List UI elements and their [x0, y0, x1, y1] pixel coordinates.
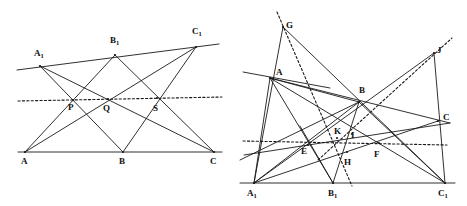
label-text: A — [21, 156, 28, 166]
label-text: A — [276, 67, 283, 77]
vertex-point-e — [307, 144, 309, 146]
dotted-G-H-B1 — [277, 12, 352, 186]
label-text: C — [443, 112, 450, 122]
label-text: F — [374, 149, 380, 159]
vertex-point-q — [107, 98, 109, 100]
vertex-label-i: I — [351, 131, 355, 140]
label-text: Q — [103, 103, 110, 113]
vertex-point-a1 — [253, 182, 255, 184]
label-text: B — [119, 156, 125, 166]
vertex-label-h: H — [344, 158, 351, 167]
vertex-label-b: B — [119, 157, 125, 166]
label-text: J — [437, 45, 442, 55]
vertex-point-k — [336, 137, 338, 139]
line-A-C1 — [270, 78, 445, 183]
label-text: G — [286, 20, 293, 30]
vertex-point-j — [433, 52, 435, 54]
vertex-label-b1: B1 — [110, 36, 119, 45]
vertex-point-c1 — [195, 46, 197, 48]
vertex-point-b1 — [332, 182, 334, 184]
vertex-label-c1: C1 — [192, 27, 202, 36]
vertex-label-j: J — [437, 46, 442, 55]
vertex-label-c1: C1 — [438, 189, 448, 198]
label-subscript: 1 — [254, 192, 257, 199]
vertex-point-s — [156, 97, 158, 99]
label-text: E — [301, 146, 307, 156]
vertex-point-c — [437, 120, 439, 122]
vertex-point-f — [378, 142, 380, 144]
line-through-A — [243, 72, 330, 88]
label-subscript: 1 — [445, 192, 448, 199]
line-B-C1 — [359, 102, 445, 183]
label-subscript: 1 — [116, 39, 119, 46]
line-B-left-extend — [240, 102, 359, 160]
label-subscript: 1 — [334, 192, 337, 199]
label-text: C — [438, 188, 445, 198]
vertex-point-b1 — [114, 54, 116, 56]
dotted-K-B-J — [318, 38, 452, 160]
vertex-label-f: F — [374, 150, 380, 159]
vertex-label-a: A — [21, 157, 28, 166]
vertex-label-g: G — [286, 21, 293, 30]
vertex-label-c: C — [443, 113, 450, 122]
vertex-point-g — [282, 26, 284, 28]
vertex-label-q: Q — [103, 104, 110, 113]
line-A-A1 — [254, 78, 270, 183]
line-C-left-extend — [244, 123, 450, 155]
label-text: P — [68, 102, 74, 112]
vertex-label-a1: A1 — [34, 49, 44, 58]
vertex-point-a — [269, 77, 271, 79]
line-C1-B — [123, 47, 196, 152]
label-text: A — [247, 188, 254, 198]
label-subscript: 1 — [199, 30, 202, 37]
vertex-point-a1 — [39, 65, 41, 67]
vertex-label-e: E — [301, 147, 307, 156]
geometry-figure-pair: A1B1C1PQSABCGJABCKIEFHA1B1C1 — [0, 0, 467, 206]
vertex-label-a1: A1 — [247, 189, 257, 198]
label-subscript: 1 — [41, 52, 44, 59]
vertex-point-b — [358, 101, 360, 103]
vertex-label-s: S — [153, 104, 158, 113]
line-B1-C — [115, 55, 214, 152]
vertex-point-h — [346, 151, 348, 153]
vertex-label-a: A — [276, 68, 283, 77]
vertex-point-b — [122, 151, 124, 153]
label-text: B — [359, 85, 365, 95]
label-text: H — [344, 157, 351, 167]
label-text: S — [153, 103, 158, 113]
vertex-point-c — [213, 151, 215, 153]
label-text: C — [210, 156, 217, 166]
vertex-point-a — [24, 151, 26, 153]
vertex-label-c: C — [210, 157, 217, 166]
vertex-label-b: B — [359, 86, 365, 95]
label-text: K — [334, 126, 341, 136]
line-G-A1 — [254, 27, 283, 183]
vertex-label-b1: B1 — [328, 189, 337, 198]
label-text: C — [192, 26, 199, 36]
vertex-label-k: K — [334, 127, 341, 136]
label-text: I — [351, 130, 355, 140]
pappus-line-PQS — [18, 97, 222, 101]
vertex-point-p — [72, 99, 74, 101]
vertex-point-c1 — [444, 182, 446, 184]
label-text: A — [34, 48, 41, 58]
line-A1-B — [40, 66, 123, 152]
line-A1-C — [40, 66, 214, 152]
vertex-label-p: P — [68, 103, 74, 112]
